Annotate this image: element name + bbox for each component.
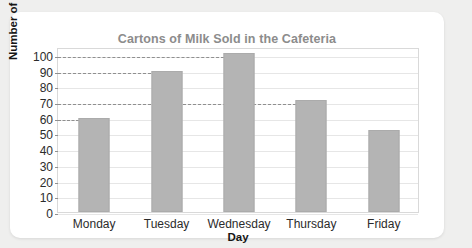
bar-slot: Wednesday <box>203 49 275 212</box>
x-tick-label: Monday <box>73 217 116 231</box>
y-tick-label: 20 <box>40 176 53 190</box>
y-tick-label: 10 <box>40 191 53 205</box>
bar-slot: Thursday <box>275 49 347 212</box>
x-tick-label: Friday <box>367 217 400 231</box>
x-axis-label: Day <box>57 231 419 243</box>
y-tick-label: 100 <box>33 50 53 64</box>
y-axis-label: Number of Cartons <box>7 0 19 68</box>
y-tick-mark <box>55 214 58 215</box>
x-tick-label: Tuesday <box>144 217 190 231</box>
plot-area: 0102030405060708090100 MondayTuesdayWedn… <box>57 48 419 213</box>
y-tick-label: 40 <box>40 144 53 158</box>
y-tick-label: 90 <box>40 66 53 80</box>
bar[interactable] <box>151 71 182 212</box>
y-tick-label: 60 <box>40 113 53 127</box>
y-tick-label: 50 <box>40 128 53 142</box>
bar[interactable] <box>223 53 254 212</box>
bar[interactable] <box>368 130 399 212</box>
bar-slot: Friday <box>348 49 420 212</box>
gridline <box>58 214 418 215</box>
y-tick-label: 70 <box>40 97 53 111</box>
bar-series: MondayTuesdayWednesdayThursdayFriday <box>58 49 418 212</box>
y-tick-label: 0 <box>46 207 53 221</box>
y-tick-label: 80 <box>40 81 53 95</box>
bar-slot: Tuesday <box>130 49 202 212</box>
x-tick-label: Wednesday <box>207 217 270 231</box>
y-tick-label: 30 <box>40 160 53 174</box>
chart-title: Cartons of Milk Sold in the Cafeteria <box>10 32 444 46</box>
x-tick-label: Thursday <box>286 217 336 231</box>
chart-card: Cartons of Milk Sold in the Cafeteria Nu… <box>10 12 444 238</box>
bar[interactable] <box>296 100 327 212</box>
bar[interactable] <box>79 118 110 212</box>
bar-slot: Monday <box>58 49 130 212</box>
